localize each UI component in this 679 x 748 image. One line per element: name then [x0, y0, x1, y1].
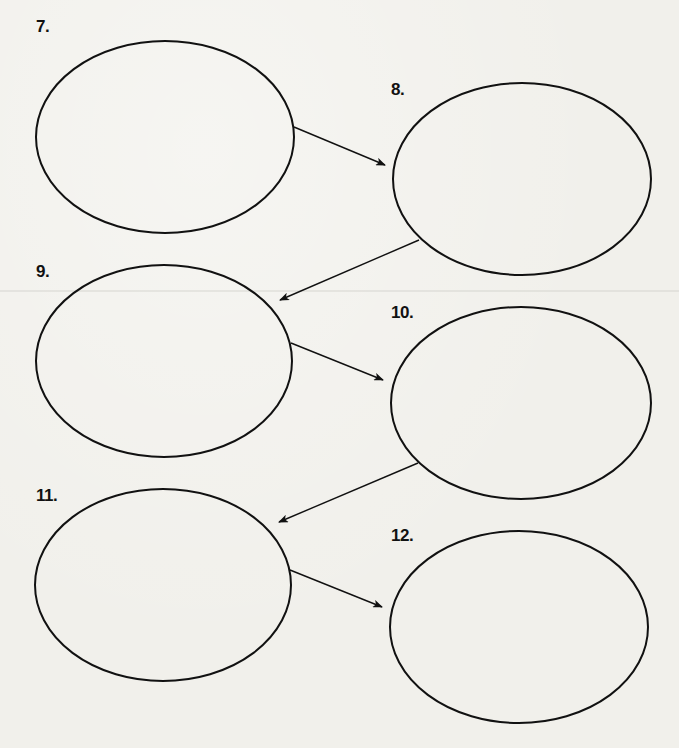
- worksheet-page: 7. 8. 9. 10. 11. 12.: [0, 0, 679, 748]
- item-number-9: 9.: [36, 262, 49, 282]
- arrow-10-to-11: [279, 463, 418, 522]
- item-number-10: 10.: [391, 303, 413, 323]
- answer-oval-10[interactable]: [391, 307, 651, 499]
- arrow-7-to-8: [294, 127, 385, 165]
- item-number-8: 8.: [391, 80, 404, 100]
- arrow-9-to-10: [291, 343, 383, 380]
- answer-oval-11[interactable]: [35, 489, 291, 681]
- item-number-11: 11.: [36, 486, 57, 506]
- answer-oval-7[interactable]: [36, 41, 294, 233]
- answer-oval-12[interactable]: [390, 531, 648, 723]
- arrow-8-to-9: [280, 240, 419, 300]
- answer-oval-9[interactable]: [36, 265, 292, 457]
- answer-oval-8[interactable]: [393, 83, 651, 275]
- item-number-7: 7.: [36, 17, 49, 37]
- arrow-11-to-12: [290, 570, 382, 607]
- sequence-chain-diagram: [0, 0, 679, 748]
- item-number-12: 12.: [391, 526, 413, 546]
